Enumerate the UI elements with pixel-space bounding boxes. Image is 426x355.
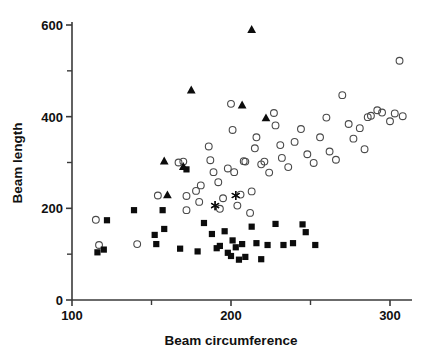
data-point-circle	[154, 192, 161, 199]
data-point-square	[153, 241, 159, 247]
plot-canvas: 0200400600100200300 Beam circumference B…	[0, 0, 426, 355]
data-point-circle	[210, 169, 217, 176]
data-point-circle	[345, 121, 352, 128]
data-point-circle	[253, 134, 260, 141]
data-point-square	[94, 249, 100, 255]
data-point-square	[101, 246, 107, 252]
x-tick-label: 200	[220, 308, 242, 323]
y-tick-label: 200	[41, 201, 63, 216]
data-point-circle	[251, 145, 258, 152]
data-point-circle	[215, 179, 222, 186]
data-point-circle	[247, 210, 254, 217]
axes-layer	[66, 22, 412, 306]
x-tick-label: 100	[61, 308, 83, 323]
data-point-square	[264, 242, 270, 248]
data-point-circle	[310, 160, 317, 167]
data-point-square	[177, 246, 183, 252]
series-filled-triangle	[160, 25, 271, 198]
data-point-circle	[326, 148, 333, 155]
data-point-square	[242, 254, 248, 260]
data-point-circle	[304, 151, 311, 158]
data-point-circle	[175, 159, 182, 166]
data-point-square	[272, 221, 278, 227]
data-point-square	[236, 257, 242, 263]
data-point-circle	[234, 202, 241, 209]
data-point-square	[239, 241, 245, 247]
data-point-circle	[396, 57, 403, 64]
data-point-circle	[229, 127, 236, 134]
data-point-circle	[196, 199, 203, 206]
data-point-square	[280, 242, 286, 248]
series-filled-square	[94, 166, 318, 262]
data-point-circle	[228, 100, 235, 107]
data-point-circle	[399, 113, 406, 120]
data-point-circle	[231, 169, 238, 176]
data-point-square	[161, 226, 167, 232]
data-point-square	[222, 228, 228, 234]
data-point-circle	[298, 126, 305, 133]
y-tick-label: 600	[41, 18, 63, 33]
y-tick-label: 400	[41, 110, 63, 125]
series-open-circle	[92, 57, 406, 248]
data-point-circle	[134, 241, 141, 248]
x-tick-label: 300	[379, 308, 401, 323]
y-tick-label: 0	[56, 293, 63, 308]
data-point-circle	[323, 114, 330, 121]
data-point-circle	[272, 122, 279, 129]
data-point-circle	[207, 157, 214, 164]
data-point-triangle	[262, 113, 271, 121]
data-point-circle	[248, 188, 255, 195]
data-point-square	[233, 244, 239, 250]
data-point-circle	[205, 143, 212, 150]
data-point-square	[249, 224, 255, 230]
data-point-square	[299, 221, 305, 227]
data-point-triangle	[163, 190, 172, 198]
data-point-square	[217, 243, 223, 249]
scatter-plot-figure: 0200400600100200300 Beam circumference B…	[0, 0, 426, 355]
data-point-circle	[92, 216, 99, 223]
x-axis-title: Beam circumference	[165, 333, 298, 348]
data-point-square	[228, 253, 234, 259]
data-point-circle	[291, 138, 298, 145]
data-point-circle	[266, 169, 273, 176]
data-point-triangle	[160, 157, 169, 165]
data-point-square	[312, 242, 318, 248]
data-point-triangle	[247, 25, 256, 33]
data-point-circle	[183, 207, 190, 214]
data-point-square	[258, 256, 264, 262]
data-point-circle	[317, 134, 324, 141]
data-point-circle	[183, 193, 190, 200]
data-point-circle	[197, 182, 204, 189]
data-point-circle	[361, 146, 368, 153]
data-point-circle	[224, 165, 231, 172]
data-point-circle	[220, 195, 227, 202]
data-point-square	[195, 248, 201, 254]
data-point-circle	[391, 110, 398, 117]
data-point-circle	[277, 142, 284, 149]
tick-label-layer: 0200400600100200300	[41, 18, 401, 323]
data-point-square	[303, 229, 309, 235]
data-point-square	[253, 240, 259, 246]
data-point-circle	[387, 118, 394, 125]
data-point-circle	[278, 155, 285, 162]
data-point-triangle	[238, 101, 247, 109]
data-point-circle	[350, 135, 357, 142]
y-axis-title: Beam length	[10, 122, 25, 203]
data-point-circle	[339, 92, 346, 99]
data-point-triangle	[187, 85, 196, 93]
data-points-layer	[92, 25, 406, 263]
data-point-circle	[271, 110, 278, 117]
data-point-square	[201, 220, 207, 226]
data-point-circle	[285, 164, 292, 171]
data-point-square	[290, 240, 296, 246]
data-point-square	[209, 231, 215, 237]
data-point-square	[160, 207, 166, 213]
data-point-circle	[356, 125, 363, 132]
data-point-square	[152, 232, 158, 238]
data-point-square	[229, 237, 235, 243]
data-point-square	[131, 207, 137, 213]
data-point-circle	[333, 156, 340, 163]
data-point-square	[104, 217, 110, 223]
